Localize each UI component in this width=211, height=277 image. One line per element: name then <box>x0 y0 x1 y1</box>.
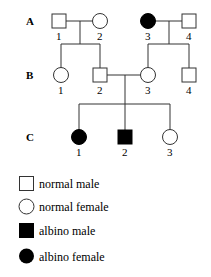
individual-a2-number: 2 <box>97 30 103 42</box>
legend-open-circle-icon <box>19 199 34 214</box>
connector-lines <box>61 21 189 130</box>
individual-a3-number: 3 <box>145 30 151 42</box>
legend-filled-square-icon <box>19 223 34 238</box>
legend: normal male normal female albino male al… <box>19 177 109 265</box>
legend-filled-circle-icon <box>19 249 34 264</box>
generation-label-c: C <box>26 131 34 143</box>
legend-label-normal-female: normal female <box>39 200 109 214</box>
legend-label-normal-male: normal male <box>39 177 99 191</box>
individual-b3-circle-icon <box>141 68 156 83</box>
individual-b3-number: 3 <box>145 84 151 96</box>
individual-c1-filled-circle-icon <box>72 130 87 145</box>
individual-c1-number: 1 <box>76 146 82 158</box>
individual-b4-number: 4 <box>186 84 192 96</box>
individual-b2-number: 2 <box>97 84 103 96</box>
legend-label-albino-female: albino female <box>39 250 105 264</box>
individual-c2-number: 2 <box>122 146 128 158</box>
generation-label-b: B <box>26 69 34 81</box>
individual-a1-number: 1 <box>56 30 62 42</box>
legend-open-square-icon <box>20 177 34 191</box>
generation-label-a: A <box>26 15 34 27</box>
individual-c3-circle-icon <box>163 130 178 145</box>
individual-a2-circle-icon <box>93 14 108 29</box>
individual-a4-square-icon <box>182 14 196 28</box>
individual-b1-number: 1 <box>58 84 64 96</box>
individual-a1-square-icon <box>52 14 66 28</box>
individual-b1-circle-icon <box>54 68 69 83</box>
individual-b2-square-icon <box>93 68 107 82</box>
pedigree-chart: A B C 1 2 3 4 1 2 3 4 1 2 3 normal male … <box>0 0 211 277</box>
individual-b4-square-icon <box>182 68 196 82</box>
individual-a4-number: 4 <box>186 30 192 42</box>
legend-label-albino-male: albino male <box>39 224 95 238</box>
individual-c3-number: 3 <box>167 146 173 158</box>
individual-c2-filled-square-icon <box>118 130 132 144</box>
individual-a3-filled-circle-icon <box>141 14 156 29</box>
